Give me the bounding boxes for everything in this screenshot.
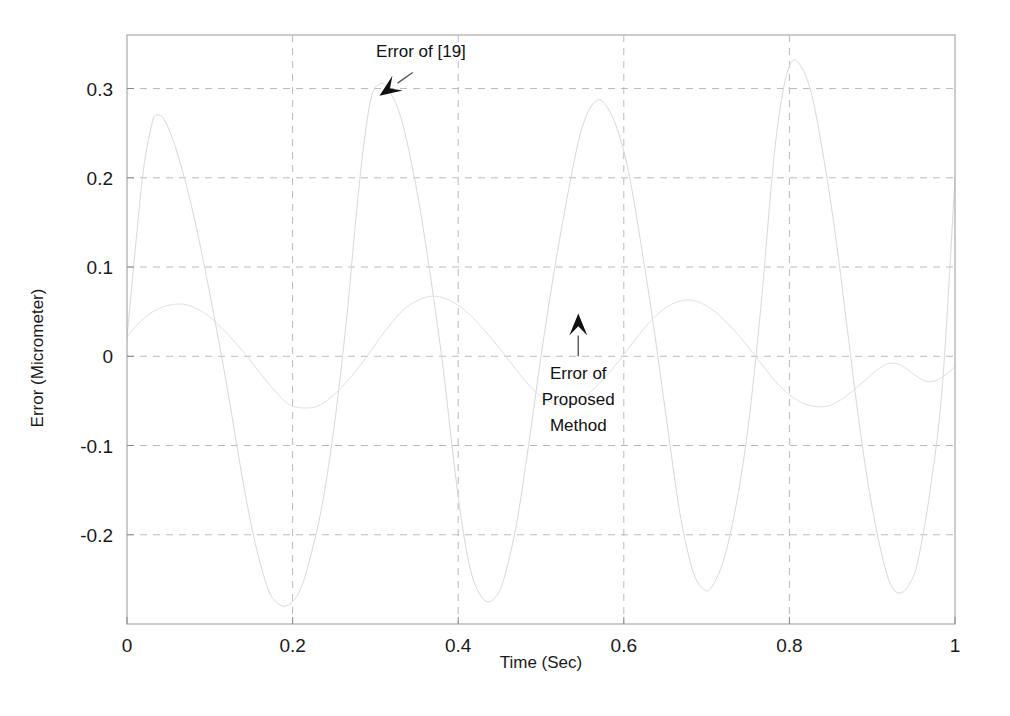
x-tick-label: 0.8 <box>776 635 802 656</box>
plot-canvas: 00.20.40.60.81 0.30.20.10-0.1-0.2 Error … <box>0 0 1010 716</box>
y-axis-label: Error (Micrometer) <box>28 289 47 428</box>
chart-figure: 00.20.40.60.81 0.30.20.10-0.1-0.2 Error … <box>0 0 1010 716</box>
x-tick-label: 0 <box>122 635 133 656</box>
y-tick-label: 0.3 <box>87 79 113 100</box>
x-tick-label: 0.2 <box>279 635 305 656</box>
y-tick-label: 0 <box>102 346 113 367</box>
y-tick-label: -0.1 <box>80 436 113 457</box>
y-tick-label: 0.2 <box>87 168 113 189</box>
x-tick-label: 0.6 <box>611 635 637 656</box>
annotation-text-line: Error of <box>550 364 607 383</box>
y-axis-ticks: 0.30.20.10-0.1-0.2 <box>80 79 134 546</box>
annotation-text-line: Proposed <box>542 390 615 409</box>
x-axis-label: Time (Sec) <box>500 653 583 672</box>
y-tick-label: 0.1 <box>87 257 113 278</box>
annotation-text-line: Method <box>550 416 607 435</box>
annotation-text: Error of [19] <box>376 42 466 61</box>
x-tick-label: 0.4 <box>445 635 472 656</box>
y-tick-label: -0.2 <box>80 525 113 546</box>
x-tick-label: 1 <box>950 635 961 656</box>
plot-background <box>127 35 955 624</box>
